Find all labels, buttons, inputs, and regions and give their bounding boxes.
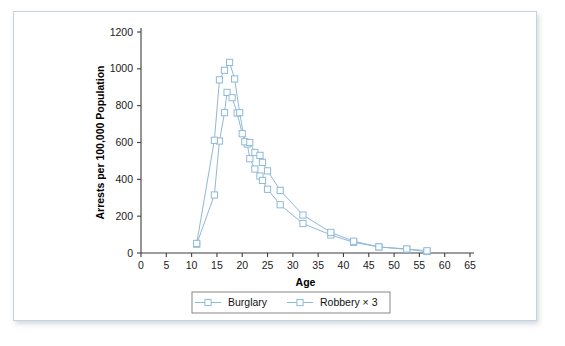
y-tick-label: 1200 — [110, 26, 134, 38]
data-point-marker — [300, 220, 306, 226]
data-point-marker — [252, 166, 258, 172]
data-point-marker — [237, 110, 243, 116]
data-point-marker — [404, 246, 410, 252]
y-tick-label: 600 — [115, 136, 133, 148]
data-point-marker — [328, 229, 334, 235]
x-tick-label: 55 — [414, 259, 426, 271]
x-tick-label: 5 — [163, 259, 169, 271]
data-point-marker — [247, 139, 253, 145]
chart-container: 0200400600800100012000510152025303540455… — [0, 0, 565, 346]
data-point-marker — [259, 159, 265, 165]
data-point-marker — [229, 95, 235, 101]
y-tick-label: 0 — [127, 247, 133, 259]
data-point-marker — [259, 177, 265, 183]
data-point-marker — [239, 131, 245, 137]
series-line-0 — [197, 92, 427, 251]
data-point-marker — [350, 238, 356, 244]
data-point-marker — [247, 156, 253, 162]
data-point-marker — [424, 248, 430, 254]
x-tick-label: 10 — [186, 259, 198, 271]
legend-marker-1 — [297, 299, 303, 305]
legend-label-1: Robbery × 3 — [320, 296, 378, 308]
data-point-marker — [300, 212, 306, 218]
x-tick-label: 50 — [388, 259, 400, 271]
x-tick-label: 0 — [138, 259, 144, 271]
data-point-marker — [194, 240, 200, 246]
legend-label-0: Burglary — [228, 296, 268, 308]
x-tick-label: 65 — [464, 259, 476, 271]
legend-marker-0 — [205, 299, 211, 305]
x-tick-label: 60 — [439, 259, 451, 271]
x-axis-title: Age — [296, 276, 316, 288]
y-axis-title: Arrests per 100,000 Population — [94, 65, 106, 219]
data-point-marker — [211, 137, 217, 143]
data-point-marker — [221, 67, 227, 73]
data-point-marker — [264, 168, 270, 174]
series-line-1 — [197, 62, 427, 250]
data-point-marker — [277, 202, 283, 208]
data-point-marker — [232, 76, 238, 82]
x-tick-label: 25 — [262, 259, 274, 271]
data-point-marker — [277, 187, 283, 193]
data-point-marker — [216, 77, 222, 83]
x-tick-label: 30 — [287, 259, 299, 271]
x-tick-label: 40 — [338, 259, 350, 271]
y-tick-label: 800 — [115, 99, 133, 111]
data-point-marker — [264, 186, 270, 192]
y-tick-label: 200 — [115, 210, 133, 222]
screenshot-root: 0200400600800100012000510152025303540455… — [0, 0, 565, 346]
y-tick-label: 400 — [115, 173, 133, 185]
x-tick-label: 15 — [211, 259, 223, 271]
data-point-marker — [221, 110, 227, 116]
data-point-marker — [211, 192, 217, 198]
x-tick-label: 35 — [312, 259, 324, 271]
x-tick-label: 20 — [236, 259, 248, 271]
data-point-marker — [226, 59, 232, 65]
data-point-marker — [376, 244, 382, 250]
x-tick-label: 45 — [363, 259, 375, 271]
line-chart: 0200400600800100012000510152025303540455… — [0, 0, 565, 346]
y-tick-label: 1000 — [110, 62, 134, 74]
data-point-marker — [257, 152, 263, 158]
